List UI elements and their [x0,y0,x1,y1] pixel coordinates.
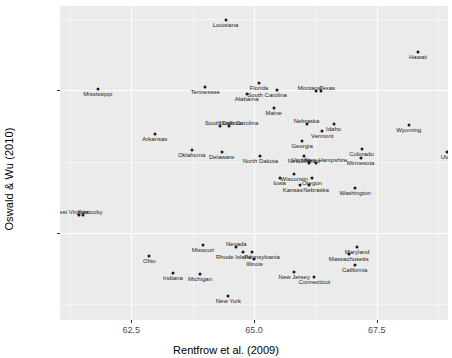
point-label: North Carolina [220,120,259,127]
point-label: Louisiana [213,22,239,29]
point-label: Kansas [283,187,303,194]
point-label: New York [216,298,241,305]
plot-panel: LouisianaHawaiiMississippiTennesseeFlori… [60,6,448,320]
point-label: Utah [441,154,448,161]
point-label: Nevada [226,241,247,248]
scatter-plot-figure: Oswald & Wu (2010) Rentfrow et al. (2009… [0,0,452,358]
point-label: Illinois [246,261,263,268]
point-label: California [342,267,367,274]
x-tick-label: 65.0 [245,325,263,335]
point-label: Oklahoma [178,152,205,159]
point-label: Vermont [311,133,333,140]
x-axis-title: Rentfrow et al. (2009) [0,344,452,356]
point-label: Texas [319,85,335,92]
grid-line-minor-x [438,6,439,320]
point-label: Nebraska [294,118,320,125]
point-label: Maine [265,110,281,117]
grid-line-minor-x [70,6,71,320]
point-label: Washington [339,190,370,197]
point-label: Minnesota [347,160,375,167]
y-axis-title: Oswald & Wu (2010) [0,0,18,358]
point-label: Arkansas [142,136,167,143]
point-label: Pennsylvania [244,254,280,261]
point-label: Nebraska [303,187,329,194]
point-label: Mississippi [83,91,112,98]
point-label: Kentucky [78,209,103,216]
x-tick-mark [377,320,378,323]
x-tick-mark [254,320,255,323]
point-label: Tennessee [191,89,220,96]
point-label: Ohio [143,258,156,265]
point-label: Wyoming [396,127,421,134]
point-label: Delaware [209,154,234,161]
grid-line-major-x [131,6,132,320]
point-label: Alabama [235,96,259,103]
point-label: New Hampshire [305,157,348,164]
grid-line-major-y [60,233,448,234]
point-label: Missouri [192,247,214,254]
point-label: Montana [298,85,321,92]
point-label: Indiana [163,275,183,282]
point-label: Massachusetts [329,256,369,263]
x-tick-label: 67.5 [368,325,386,335]
point-label: Connecticut [299,279,331,286]
point-label: Georgia [291,143,312,150]
x-tick-mark [131,320,132,323]
point-label: Hawaii [409,54,427,61]
point-label: North Dakota [243,158,278,165]
point-label: Michigan [188,276,212,283]
grid-line-minor-x [193,6,194,320]
x-tick-label: 62.5 [122,325,140,335]
grid-line-major-x [377,6,378,320]
